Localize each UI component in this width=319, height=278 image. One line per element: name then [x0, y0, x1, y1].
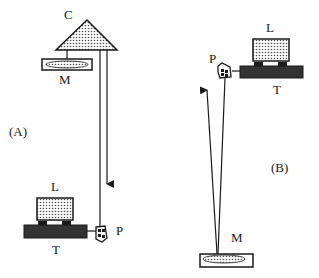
laptop-foot-left-a: [38, 221, 47, 225]
panel-a: [24, 20, 117, 242]
label-l-b: L: [266, 21, 274, 34]
mirror-m-lens-b: [203, 255, 245, 263]
corner-reflector-c: [56, 20, 117, 50]
mirror-m-lens-a: [46, 61, 88, 68]
label-m-a: M: [59, 73, 71, 86]
panel-b: [200, 39, 303, 267]
pointer-p-b: [218, 63, 231, 78]
laptop-foot-left-b: [254, 62, 263, 66]
laptop-l-a: [37, 198, 73, 220]
label-c-a: C: [64, 8, 73, 21]
label-p-b: P: [209, 52, 216, 65]
table-t-b: [240, 66, 303, 78]
diagram-canvas: [0, 0, 319, 278]
laptop-l-b: [253, 39, 289, 61]
laptop-foot-right-b: [278, 62, 287, 66]
table-t-a: [24, 225, 87, 238]
label-l-a: L: [51, 180, 59, 193]
pointer-p-a: [96, 226, 107, 242]
label-p-a: P: [116, 224, 123, 237]
label-t-a: T: [52, 243, 60, 256]
label-t-b: T: [273, 83, 281, 96]
beam-return-b: [207, 90, 217, 254]
panel-a-label: (A): [9, 125, 27, 138]
label-m-b: M: [231, 231, 243, 244]
panel-b-label: (B): [271, 161, 288, 174]
beam-outgoing-b: [218, 78, 225, 254]
laptop-foot-right-a: [62, 221, 71, 225]
